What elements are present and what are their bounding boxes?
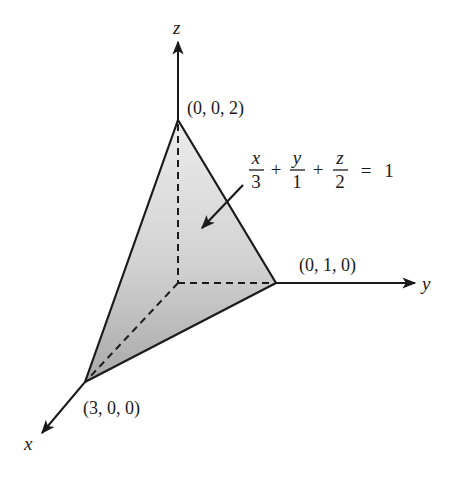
eq-term2-numerator: y bbox=[291, 147, 302, 168]
eq-equals: = bbox=[361, 160, 372, 181]
x-axis-arrow bbox=[42, 382, 85, 433]
plane-intercept-diagram: z y x (0, 0, 2) (0, 1, 0) (3, 0, 0) x 3 … bbox=[0, 0, 455, 477]
eq-term1-denominator: 3 bbox=[251, 171, 261, 192]
eq-plus-1: + bbox=[271, 159, 282, 180]
y-intercept-label: (0, 1, 0) bbox=[299, 255, 356, 276]
x-intercept-label: (3, 0, 0) bbox=[83, 398, 140, 419]
eq-term3-denominator: 2 bbox=[335, 171, 345, 192]
plane-equation: x 3 + y 1 + z 2 = 1 bbox=[249, 147, 394, 192]
eq-plus-2: + bbox=[313, 159, 324, 180]
y-axis-label: y bbox=[420, 273, 431, 294]
x-axis-label: x bbox=[23, 433, 33, 454]
plane-triangle bbox=[85, 120, 276, 382]
z-intercept-label: (0, 0, 2) bbox=[187, 98, 244, 119]
eq-term2-denominator: 1 bbox=[292, 171, 302, 192]
eq-term1-numerator: x bbox=[251, 147, 261, 168]
eq-term3-numerator: z bbox=[335, 147, 344, 168]
z-axis-label: z bbox=[172, 17, 181, 38]
eq-rhs: 1 bbox=[384, 160, 394, 181]
